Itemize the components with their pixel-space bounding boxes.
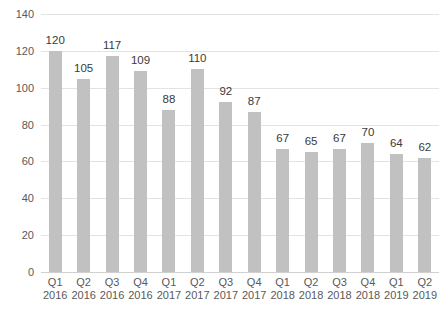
bar-value-label: 88 (153, 93, 185, 106)
bar (162, 110, 175, 272)
bar (219, 102, 232, 272)
bar (333, 149, 346, 272)
x-axis-tick-label: Q1 2018 (267, 276, 299, 302)
y-axis-tick-label: 80 (0, 119, 34, 131)
bar (191, 69, 204, 272)
bar (106, 56, 119, 272)
x-axis-tick-label: Q3 2017 (210, 276, 242, 302)
x-axis-tick-label: Q2 2016 (68, 276, 100, 302)
x-axis-tick-label: Q4 2016 (125, 276, 157, 302)
bar (418, 158, 431, 272)
y-axis-tick-label: 20 (0, 229, 34, 241)
bar-value-label: 92 (210, 85, 242, 98)
y-axis-tick-label: 120 (0, 45, 34, 57)
x-axis-tick-label: Q2 2018 (295, 276, 327, 302)
x-axis-tick-label: Q1 2019 (380, 276, 412, 302)
y-axis-tick-label: 60 (0, 155, 34, 167)
bar-value-label: 117 (96, 39, 128, 52)
x-axis-tick-label: Q2 2017 (181, 276, 213, 302)
y-axis-tick-label: 40 (0, 192, 34, 204)
bar (361, 143, 374, 272)
x-axis-tick-label: Q1 2016 (39, 276, 71, 302)
gridline (41, 161, 439, 162)
x-axis-tick-label: Q1 2017 (153, 276, 185, 302)
bar (305, 152, 318, 272)
x-axis-line (41, 272, 439, 273)
y-axis-tick-label: 140 (0, 8, 34, 20)
y-axis-tick-label: 100 (0, 82, 34, 94)
bar-value-label: 87 (238, 95, 270, 108)
bar-value-label: 65 (295, 135, 327, 148)
bar (248, 112, 261, 272)
gridline (41, 235, 439, 236)
x-axis-tick-label: Q4 2017 (238, 276, 270, 302)
bar (77, 79, 90, 273)
bar (49, 51, 62, 272)
bar-value-label: 64 (380, 137, 412, 150)
y-axis-tick-label: 0 (0, 266, 34, 278)
bar-value-label: 110 (181, 52, 213, 65)
gridline (41, 198, 439, 199)
bar (134, 71, 147, 272)
bar-value-label: 67 (324, 132, 356, 145)
gridline (41, 14, 439, 15)
bar-value-label: 120 (39, 34, 71, 47)
bar-chart: 020406080100120140 120Q1 2016105Q2 20161… (0, 0, 442, 313)
x-axis-tick-label: Q4 2018 (352, 276, 384, 302)
bar-value-label: 70 (352, 126, 384, 139)
bar (276, 149, 289, 272)
bar (390, 154, 403, 272)
x-axis-tick-label: Q3 2018 (324, 276, 356, 302)
bar-value-label: 109 (125, 54, 157, 67)
bar-value-label: 67 (267, 132, 299, 145)
x-axis-tick-label: Q3 2016 (96, 276, 128, 302)
x-axis-tick-label: Q2 2019 (409, 276, 441, 302)
bar-value-label: 105 (68, 62, 100, 75)
bar-value-label: 62 (409, 141, 441, 154)
